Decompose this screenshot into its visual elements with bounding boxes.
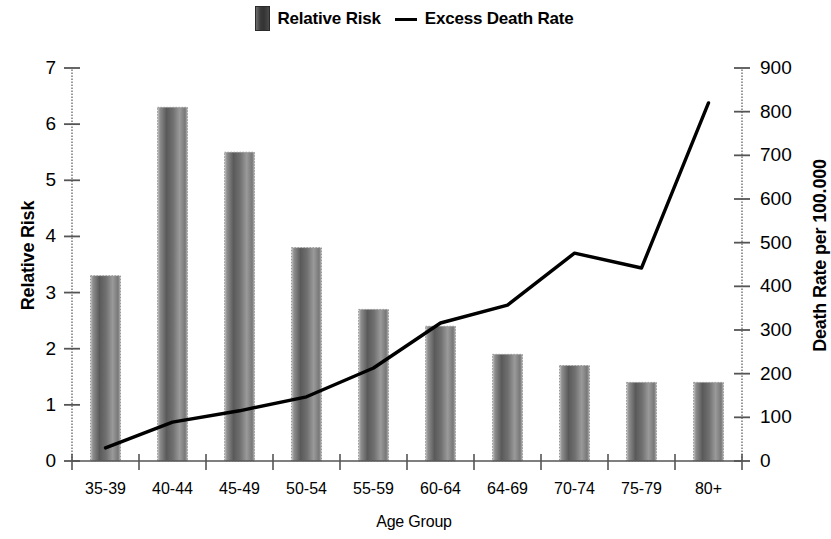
y-axis-left-title: Relative Risk <box>18 156 39 356</box>
y-axis-right-tick-label: 800 <box>760 102 820 121</box>
x-axis-title: Age Group <box>0 513 828 531</box>
excess-death-rate-line <box>106 103 709 448</box>
y-axis-left-tick-label: 7 <box>14 58 56 77</box>
bar <box>225 152 255 461</box>
line-series <box>106 103 709 448</box>
bar <box>694 382 724 461</box>
y-axis-right-tick-label: 100 <box>760 407 820 426</box>
bar-series <box>91 107 724 461</box>
x-axis-category-label: 80+ <box>664 481 754 497</box>
bar <box>560 366 590 461</box>
bar <box>426 326 456 461</box>
y-axis-right-tick-label: 0 <box>760 451 820 470</box>
y-axis-left-tick-label: 6 <box>14 114 56 133</box>
y-axis-left-tick-label: 1 <box>14 395 56 414</box>
bar <box>493 354 523 461</box>
bar <box>91 276 121 461</box>
bar <box>292 248 322 461</box>
y-axis-right-title: Death Rate per 100.000 <box>810 126 831 386</box>
bar <box>627 382 657 461</box>
bar <box>359 309 389 461</box>
y-axis-right-tick-label: 900 <box>760 58 820 77</box>
bar <box>158 107 188 461</box>
y-axis-left-tick-label: 0 <box>14 451 56 470</box>
